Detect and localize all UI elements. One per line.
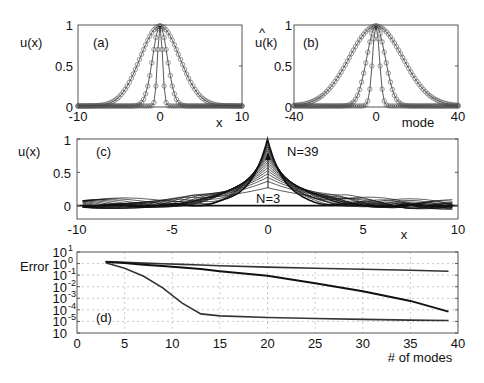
panel-b-xtick-m40: -40: [285, 109, 304, 124]
panel-a-xtick-10: 10: [235, 109, 249, 124]
panel-c-xtick-m5: -5: [166, 222, 178, 237]
panel-c-ytick-0: 0: [64, 199, 71, 214]
panel-d: 10110010-110-210-310-410-510 05101520253…: [20, 243, 465, 365]
panel-d-yticks: 10110010-110-210-310-410-510: [53, 243, 458, 341]
y-tick-exponent: 0: [68, 255, 73, 265]
panel-a-xlabel: x: [216, 115, 223, 130]
y-tick-exponent: -5: [68, 312, 76, 322]
x-tick-label: 10: [165, 336, 179, 351]
panel-c-xtick-10: 10: [451, 222, 465, 237]
annotation-n39: N=39: [287, 144, 318, 159]
panel-c: u(x) (c) 1 0.5 0 -10 -5 0 5 10 x N=39 N=…: [18, 133, 465, 242]
panel-b-tag: (b): [303, 35, 319, 50]
y-tick-label: 10: [53, 326, 67, 341]
panel-a-ytick-05: 0.5: [55, 59, 73, 74]
panel-b-ytick-05: 0.5: [274, 59, 292, 74]
y-tick-exponent: -2: [68, 278, 76, 288]
panel-c-ylabel: u(x): [18, 144, 40, 159]
panel-b-xlabel: mode: [402, 115, 435, 130]
panel-b-ytick-1: 1: [285, 18, 292, 33]
panel-d-curves: [106, 262, 449, 321]
panel-c-xtick-m10: -10: [68, 222, 87, 237]
panel-b-xtick-40: 40: [451, 109, 465, 124]
panel-d-ylabel: Error: [20, 259, 50, 274]
y-tick-exponent: -3: [68, 289, 76, 299]
panel-d-xticks: 0510152025303540: [73, 336, 465, 351]
y-tick-exponent: 1: [68, 243, 73, 253]
panel-c-xtick-0: 0: [264, 222, 271, 237]
x-tick-label: 15: [213, 336, 227, 351]
panel-a-tag: (a): [93, 35, 109, 50]
panel-b: u(k) ^ (b) 1 0.5 0 -40 0 40 mode: [255, 18, 465, 130]
annotation-n3: N=3: [256, 191, 280, 206]
panel-c-xtick-5: 5: [359, 222, 366, 237]
figure: u(x) (a) 1 0.5 0 -10 0 10 x u(k) ^ (b) 1…: [0, 0, 484, 383]
panel-d-tag: (d): [96, 310, 112, 325]
x-tick-label: 5: [121, 336, 128, 351]
panel-c-tag: (c): [96, 144, 111, 159]
panel-b-ylabel-hat: ^: [259, 25, 266, 40]
panel-a-xtick-0: 0: [156, 109, 163, 124]
y-tick-exponent: -4: [68, 301, 76, 311]
x-tick-label: 25: [308, 336, 322, 351]
x-tick-label: 40: [451, 336, 465, 351]
panel-b-xtick-0: 0: [372, 109, 379, 124]
x-tick-label: 30: [356, 336, 370, 351]
x-tick-label: 20: [260, 336, 274, 351]
panel-c-ytick-1: 1: [64, 133, 71, 148]
x-tick-label: 0: [73, 336, 80, 351]
panel-c-ytick-05: 0.5: [53, 166, 71, 181]
panel-d-xlabel: # of modes: [388, 350, 453, 365]
panel-a-ytick-1: 1: [66, 18, 73, 33]
panel-c-xlabel: x: [401, 227, 408, 242]
panel-a: u(x) (a) 1 0.5 0 -10 0 10 x: [20, 18, 249, 130]
error-curve: [106, 263, 449, 321]
x-tick-label: 35: [403, 336, 417, 351]
panel-a-ylabel: u(x): [20, 35, 42, 50]
y-tick-exponent: -1: [68, 266, 76, 276]
panel-a-xtick-m10: -10: [69, 109, 88, 124]
